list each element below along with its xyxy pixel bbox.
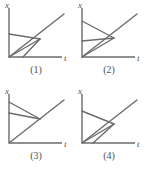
lower-worldline	[9, 39, 40, 57]
t-axis-label: t	[64, 53, 67, 63]
t-axis-label: t	[137, 139, 140, 149]
panel-2-canvas: x t	[73, 0, 145, 68]
panel-4-axes	[82, 94, 135, 143]
panel-1-axes	[9, 8, 62, 57]
t-axis-label: t	[64, 139, 67, 149]
steep-worldline-a	[82, 124, 114, 143]
upper-worldline	[82, 21, 114, 38]
t-axis-label: t	[137, 53, 140, 63]
panel-4-canvas: x t	[73, 86, 145, 154]
panel-2-axes	[82, 8, 135, 57]
diagram-panel-2: x t (2)	[73, 0, 145, 86]
x-axis-label: x	[77, 86, 82, 96]
panel-2-worldlines	[82, 14, 137, 57]
spacetime-diagram-figure: x t (1) x t (2)	[0, 0, 145, 172]
panel-caption: (1)	[0, 64, 72, 76]
panel-1-worldlines	[9, 14, 64, 57]
upper-worldline	[82, 111, 114, 124]
panel-1-canvas: x t	[0, 0, 72, 68]
diagram-panel-1: x t (1)	[0, 0, 72, 86]
x-axis-label: x	[4, 86, 9, 96]
diagram-panel-3: x t (3)	[0, 86, 72, 172]
panel-caption: (2)	[73, 64, 145, 76]
panel-3-canvas: x t	[0, 86, 72, 154]
x-axis-label: x	[77, 0, 82, 10]
x-axis-label: x	[4, 0, 9, 10]
panel-caption: (4)	[73, 150, 145, 162]
diagram-panel-4: x t (4)	[73, 86, 145, 172]
panel-3-worldlines	[9, 100, 64, 143]
panel-4-worldlines	[82, 100, 137, 143]
panel-caption: (3)	[0, 150, 72, 162]
